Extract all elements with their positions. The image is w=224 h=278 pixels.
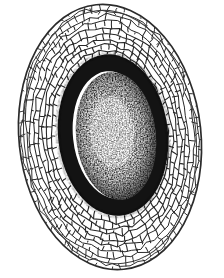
cortex-radial-wall <box>52 160 54 161</box>
cross-section-micrograph <box>0 0 224 278</box>
figure-root: Cross-section micrograph illustration pl… <box>0 0 224 278</box>
cortex-radial-wall <box>134 218 135 224</box>
cortex-radial-wall <box>147 230 148 235</box>
cortex-radial-wall <box>107 252 108 258</box>
cortex-radial-wall <box>126 39 127 43</box>
cortex-radial-wall <box>86 250 87 258</box>
cortex-radial-wall <box>96 36 97 40</box>
cortex-radial-wall <box>124 43 125 49</box>
cortex-radial-wall <box>189 140 196 141</box>
